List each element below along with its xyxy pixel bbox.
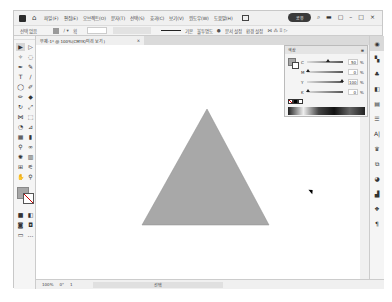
symbols-panel-icon[interactable]: ♣ [370,66,384,81]
minimize-icon[interactable]: – [349,13,352,21]
tab-close-icon[interactable]: × [137,38,140,43]
slider-m-value[interactable]: 0 [348,69,358,75]
panel-stroke-box[interactable] [292,62,299,69]
stroke-color-box[interactable] [23,193,34,204]
maximize-icon[interactable]: □ [358,13,364,21]
shape-builder-tool-icon[interactable]: ◔ [16,123,25,131]
workspace-icon[interactable]: ▬ [326,13,332,21]
slider-y-track[interactable] [307,81,343,83]
eyedropper-tool-icon[interactable]: ⚲ [16,143,25,151]
zoom-tool-icon[interactable]: ⚲ [26,173,35,181]
search-icon[interactable]: ⌕ [317,13,320,21]
menu-help[interactable]: 도움말(H) [214,15,233,21]
zoom-level[interactable]: 100% [42,282,53,287]
artboard-tool-icon[interactable]: ⊞ [16,163,25,171]
paintbrush-tool-icon[interactable]: ✐ [26,83,35,91]
character-panel-icon[interactable]: A| [370,126,384,141]
slider-m-knob[interactable] [306,69,310,72]
panel-menu-icon[interactable]: ≡ [361,48,364,53]
slider-c-value[interactable]: 50 [348,59,358,65]
opacity-label[interactable]: 불투명도 [197,28,213,34]
symbol-sprayer-tool-icon[interactable]: ✺ [16,153,25,161]
draw-normal-icon[interactable]: ◙ [16,221,25,229]
layers-panel-icon[interactable]: ▟ [370,186,384,201]
width-tool-icon[interactable]: ⋈ [16,113,25,121]
preferences-button[interactable]: 환경 설정 [246,28,263,34]
align-panel-icon[interactable]: ☰ [370,111,384,126]
gradient-tool-icon[interactable]: ▮ [26,133,35,141]
mesh-tool-icon[interactable]: ▦ [16,133,25,141]
slice-tool-icon[interactable]: ⚟ [26,163,35,171]
slider-k-track[interactable] [307,91,343,93]
scale-tool-icon[interactable]: ⤢ [26,103,35,111]
libraries-panel-icon[interactable]: ▤ [370,96,384,111]
color-guide-panel-icon[interactable]: ◕ [370,171,384,186]
slider-c-knob[interactable] [326,59,330,62]
menu-edit[interactable]: 편집(E) [64,15,78,21]
document-tab[interactable]: 무제-1* @ 100%(CMYK/미리 보기) × [36,36,144,45]
ellipse-tool-icon[interactable]: ◯ [16,83,25,91]
gradient-mode-icon[interactable]: ◧ [26,211,35,219]
slider-k[interactable]: K 0 % [301,88,367,96]
type-tool-icon[interactable]: T [16,73,25,81]
document-setup-button[interactable]: 문서 설정 [225,28,242,34]
panel-icon[interactable]: ▢ [338,13,344,21]
rotate-tool-icon[interactable]: ↻ [16,103,25,111]
share-button[interactable]: 공유 [288,13,311,22]
slider-c[interactable]: C 50 % [301,58,367,66]
stroke-icon[interactable]: / ▾ [63,28,68,33]
style-icon[interactable]: ● [217,28,221,33]
blend-tool-icon[interactable]: ∞ [26,143,35,151]
rotation-value[interactable]: 0° [59,282,64,287]
artboard-number[interactable]: 1 [70,282,73,287]
menu-object[interactable]: 오브젝트(O) [83,15,106,21]
pen-tool-icon[interactable]: ✒ [16,63,25,71]
color-mode-icon[interactable]: ■ [16,211,25,219]
lasso-tool-icon[interactable]: ◌ [26,53,35,61]
menu-window[interactable]: 윈도우(W) [189,15,209,21]
direct-selection-tool-icon[interactable]: ▷ [26,43,35,51]
free-transform-tool-icon[interactable]: ⬚ [26,113,35,121]
menu-file[interactable]: 파일(F) [44,15,58,21]
slider-m-track[interactable] [307,71,343,73]
selection-tool-icon[interactable]: ▶ [16,43,25,51]
curvature-tool-icon[interactable]: ✎ [26,63,35,71]
graph-tool-icon[interactable]: ▥ [26,153,35,161]
tool-status[interactable]: 선택 [93,282,223,288]
slider-k-knob[interactable] [306,89,310,92]
white-swatch[interactable] [298,99,303,104]
color-panel-header[interactable]: 색상 ≡ [285,46,367,54]
color-spectrum-ramp[interactable] [288,107,365,115]
menu-type[interactable]: 문자(T) [111,15,125,21]
paragraph-panel-icon[interactable]: ¶ [370,216,384,231]
brush-preview[interactable] [161,30,181,31]
align-icon[interactable]: ⋈ ⁂ ⠿ ▷ [267,28,287,33]
line-tool-icon[interactable]: / [26,73,35,81]
eraser-tool-icon[interactable]: ◆ [26,93,35,101]
slider-y-knob[interactable] [340,79,344,82]
transform-panel-icon[interactable]: ⧉ [370,156,384,171]
stack-panel-icon[interactable]: ❖ [370,201,384,216]
swatches-panel-icon[interactable]: ▚ [370,51,384,66]
slider-c-track[interactable] [307,61,343,63]
menu-effect[interactable]: 효과(C) [150,15,165,21]
menu-select[interactable]: 선택(S) [130,15,144,21]
arrange-documents-icon[interactable] [242,15,249,21]
home-icon[interactable]: ⌂ [32,14,36,22]
appearance-panel-icon[interactable]: ♛ [370,141,384,156]
slider-k-value[interactable]: 0 [348,89,358,95]
slider-y[interactable]: Y 100 % [301,78,367,86]
slider-m[interactable]: M 0 % [301,68,367,76]
draw-behind-icon[interactable]: ◘ [26,221,35,229]
brushes-panel-icon[interactable]: ◧ [370,81,384,96]
perspective-grid-tool-icon[interactable]: ⊿ [26,123,35,131]
pencil-tool-icon[interactable]: ✏ [16,93,25,101]
color-panel-icon[interactable]: ◉ [370,36,384,51]
more-tools-icon[interactable]: … [26,231,35,239]
close-icon[interactable]: × [370,13,375,21]
stroke-weight-input[interactable] [87,27,107,34]
slider-y-value[interactable]: 100 [348,79,358,85]
screen-mode-icon[interactable]: ▭ [16,231,25,239]
fill-swatch[interactable] [53,28,59,34]
magic-wand-tool-icon[interactable]: ✧ [16,53,25,61]
